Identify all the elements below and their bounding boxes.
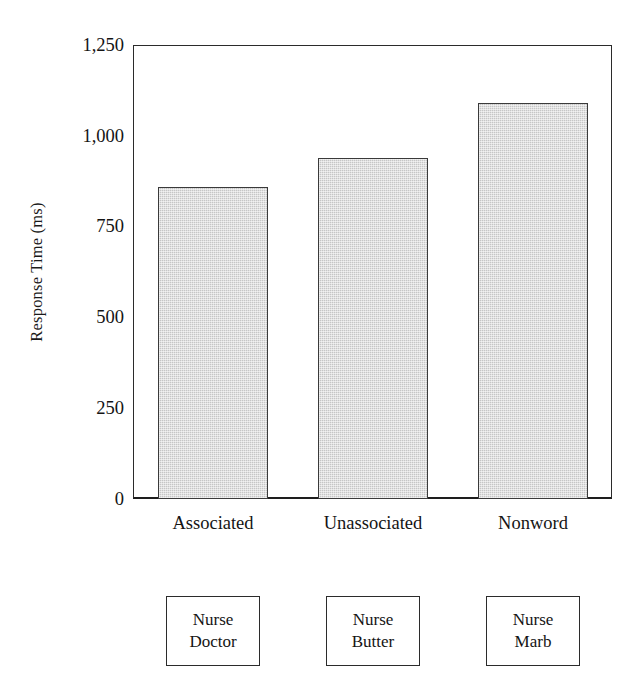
stimulus-target: Butter (352, 631, 395, 653)
y-tick-label: 750 (52, 217, 124, 236)
stimulus-prime: Nurse (193, 609, 234, 631)
x-axis-tick-labels: Associated Unassociated Nonword (133, 512, 612, 542)
y-tick-label: 250 (52, 399, 124, 418)
y-tick-label: 500 (52, 308, 124, 327)
stimulus-box-associated: Nurse Doctor (166, 596, 260, 666)
stimulus-boxes-row: Nurse Doctor Nurse Butter Nurse Marb (133, 596, 612, 672)
y-axis-tick-labels: 1,250 1,000 750 500 250 0 (48, 0, 124, 693)
bars-layer (133, 45, 612, 499)
bar-chart-figure: Response Time (ms) 1,250 1,000 750 500 2… (0, 0, 640, 693)
y-tick-label: 1,250 (52, 36, 124, 55)
x-tick-label-unassociated: Unassociated (324, 512, 423, 534)
stimulus-box-unassociated: Nurse Butter (326, 596, 420, 666)
x-tick-label-nonword: Nonword (498, 512, 568, 534)
stimulus-target: Doctor (189, 631, 236, 653)
x-tick-label-associated: Associated (172, 512, 253, 534)
bar-unassociated (318, 158, 428, 499)
bar-nonword (478, 103, 588, 499)
stimulus-prime: Nurse (353, 609, 394, 631)
bar-associated (158, 187, 268, 499)
stimulus-box-nonword: Nurse Marb (486, 596, 580, 666)
y-axis-title: Response Time (ms) (24, 45, 50, 499)
y-tick-label: 0 (52, 490, 124, 509)
stimulus-prime: Nurse (513, 609, 554, 631)
stimulus-target: Marb (515, 631, 552, 653)
y-tick-label: 1,000 (52, 127, 124, 146)
